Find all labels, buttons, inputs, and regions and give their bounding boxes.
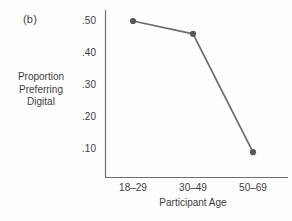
data-point-marker <box>250 149 256 155</box>
data-point-marker <box>190 31 196 37</box>
data-point-marker <box>130 18 136 24</box>
plot-area <box>0 0 292 221</box>
line-chart-figure: (b) Proportion Preferring Digital .50.40… <box>0 0 292 221</box>
data-line <box>133 21 253 152</box>
